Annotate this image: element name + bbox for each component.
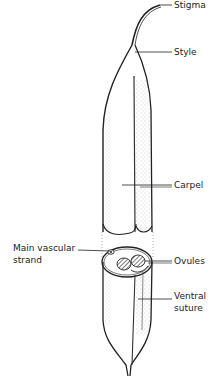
label-carpel: Carpel (174, 180, 203, 191)
label-ventral-suture-1: Ventral (174, 291, 206, 302)
carpel-lower (103, 262, 152, 376)
label-main-vascular-strand-1: Main vascular (13, 243, 75, 254)
label-stigma: Stigma (174, 0, 206, 11)
carpel-diagram: Stigma Style Carpel Main vascular strand… (0, 0, 224, 391)
style (132, 5, 161, 45)
carpel-upper (103, 45, 152, 234)
leader-lines (78, 5, 172, 299)
label-main-vascular-strand-2: strand (13, 255, 42, 266)
label-style: Style (174, 47, 197, 58)
label-ovules: Ovules (174, 256, 205, 267)
carpel-drawing (0, 0, 224, 391)
label-ventral-suture-2: suture (174, 303, 203, 314)
transverse-section (102, 247, 152, 277)
